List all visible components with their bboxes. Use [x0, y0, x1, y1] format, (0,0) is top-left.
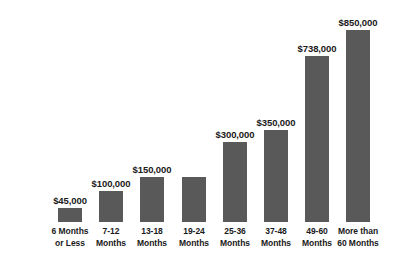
bar-group-more-than-60-months[interactable]: $850,000: [346, 0, 370, 222]
bar-chart: $45,000 $100,000 $150,000 $300,000 $350,…: [0, 0, 394, 265]
category-label-line1: 13-18: [128, 226, 176, 238]
bar-rect[interactable]: [346, 30, 370, 222]
category-label-line2: Months: [128, 238, 176, 250]
bar-value-label: $350,000: [257, 118, 296, 128]
bar-group-19-24-months[interactable]: [182, 0, 206, 222]
category-label-line2: 60 Months: [330, 238, 386, 250]
bar-rect[interactable]: [264, 130, 288, 222]
bar-group-6-months-or-less[interactable]: $45,000: [58, 0, 82, 222]
bar-group-49-60-months[interactable]: $738,000: [305, 0, 329, 222]
bar-group-37-48-months[interactable]: $350,000: [264, 0, 288, 222]
plot-area: $45,000 $100,000 $150,000 $300,000 $350,…: [0, 0, 394, 222]
bar-rect[interactable]: [99, 191, 123, 222]
bar-value-label: $738,000: [298, 44, 337, 54]
category-label-more-than-60-months: More than 60 Months: [330, 226, 386, 249]
bar-rect[interactable]: [140, 177, 164, 222]
bar-group-13-18-months[interactable]: $150,000: [140, 0, 164, 222]
bar-value-label: $45,000: [53, 196, 87, 206]
bar-value-label: $100,000: [92, 179, 131, 189]
category-label-line1: More than: [330, 226, 386, 238]
bar-rect[interactable]: [223, 142, 247, 222]
category-label-13-18-months: 13-18 Months: [128, 226, 176, 249]
bar-rect[interactable]: [305, 56, 329, 222]
bar-value-label: $300,000: [216, 130, 255, 140]
bar-rect[interactable]: [182, 177, 206, 222]
bar-rect[interactable]: [58, 208, 82, 222]
bar-value-label: $150,000: [133, 165, 172, 175]
bar-group-25-36-months[interactable]: $300,000: [223, 0, 247, 222]
bar-group-7-12-months[interactable]: $100,000: [99, 0, 123, 222]
bar-value-label: $850,000: [339, 18, 378, 28]
category-axis: 6 Months or Less 7-12 Months 13-18 Month…: [0, 226, 394, 265]
